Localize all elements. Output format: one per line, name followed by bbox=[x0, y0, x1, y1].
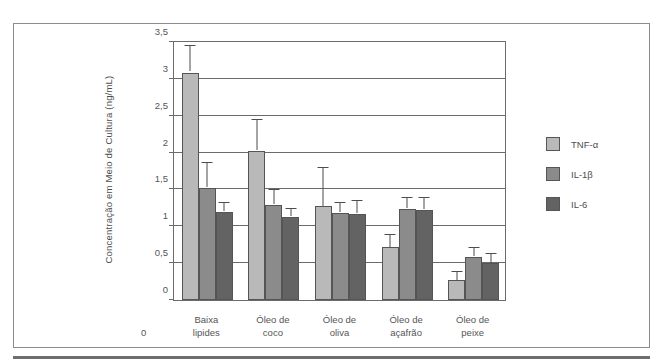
bar-slot bbox=[416, 42, 433, 300]
figure-divider-rule bbox=[13, 356, 650, 359]
bar[interactable] bbox=[282, 217, 299, 300]
bar[interactable] bbox=[315, 206, 332, 300]
error-bar bbox=[224, 203, 225, 211]
error-bar-cap bbox=[402, 197, 413, 198]
bar[interactable] bbox=[216, 212, 233, 300]
bar[interactable] bbox=[199, 188, 216, 300]
x-axis-origin-label: 0 bbox=[141, 327, 146, 338]
bar-slot bbox=[482, 42, 499, 300]
legend-swatch-icon bbox=[546, 137, 560, 151]
bar-slot bbox=[216, 42, 233, 300]
error-bar-cap bbox=[468, 247, 479, 248]
error-bar-cap bbox=[385, 234, 396, 235]
error-bar bbox=[490, 254, 491, 263]
bar[interactable] bbox=[182, 73, 199, 300]
y-axis-tick-label: 1,5 bbox=[155, 173, 168, 184]
legend-item[interactable]: IL-6 bbox=[546, 189, 636, 219]
bar[interactable] bbox=[382, 247, 399, 300]
legend-swatch-icon bbox=[546, 167, 560, 181]
x-axis-category-label-line: Baixa bbox=[173, 314, 240, 327]
legend-label: TNF-α bbox=[571, 139, 598, 150]
bar-slot bbox=[382, 42, 399, 300]
bar[interactable] bbox=[482, 263, 499, 300]
bar-slot bbox=[248, 42, 265, 300]
bar[interactable] bbox=[448, 280, 465, 300]
error-bar bbox=[340, 203, 341, 213]
x-axis-category-label-line: açafrão bbox=[373, 327, 440, 340]
error-bar-cap bbox=[285, 208, 296, 209]
x-axis-category-label: Óleo deaçafrão bbox=[373, 314, 440, 339]
bar-group bbox=[374, 42, 441, 300]
error-bar bbox=[407, 198, 408, 208]
x-axis-category-label: Óleo depeixe bbox=[439, 314, 506, 339]
bar-slot bbox=[349, 42, 366, 300]
error-bar bbox=[207, 163, 208, 188]
y-axis-tick-label: 3 bbox=[163, 62, 168, 73]
bar-series-layer bbox=[174, 42, 505, 300]
error-bar bbox=[323, 168, 324, 206]
bar-slot bbox=[399, 42, 416, 300]
bar-slot bbox=[282, 42, 299, 300]
bar[interactable] bbox=[465, 257, 482, 300]
bar[interactable] bbox=[349, 214, 366, 300]
bar-slot bbox=[182, 42, 199, 300]
error-bar bbox=[273, 190, 274, 204]
error-bar-cap bbox=[335, 202, 346, 203]
x-axis-category-label-line: Óleo de bbox=[306, 314, 373, 327]
legend-label: IL-6 bbox=[571, 199, 587, 210]
error-bar-cap bbox=[268, 189, 279, 190]
x-axis-category-label-line: lipides bbox=[173, 327, 240, 340]
chart-legend: TNF-αIL-1βIL-6 bbox=[546, 129, 636, 219]
y-axis-tick-label: 1 bbox=[163, 210, 168, 221]
error-bar bbox=[390, 235, 391, 246]
y-axis-tick-label: 2,5 bbox=[155, 99, 168, 110]
bar-slot bbox=[265, 42, 282, 300]
error-bar-cap bbox=[219, 202, 230, 203]
error-bar bbox=[357, 201, 358, 213]
bar[interactable] bbox=[332, 213, 349, 300]
legend-item[interactable]: IL-1β bbox=[546, 159, 636, 189]
error-bar bbox=[424, 198, 425, 210]
bar-group bbox=[241, 42, 308, 300]
bar-slot bbox=[448, 42, 465, 300]
legend-item[interactable]: TNF-α bbox=[546, 129, 636, 159]
x-axis-category-label-line: oliva bbox=[306, 327, 373, 340]
error-bar-cap bbox=[485, 253, 496, 254]
x-axis-category-label: Óleo deoliva bbox=[306, 314, 373, 339]
x-axis-labels: BaixalipidesÓleo decocoÓleo deolivaÓleo … bbox=[173, 314, 506, 360]
error-bar bbox=[473, 248, 474, 256]
bar-slot bbox=[199, 42, 216, 300]
error-bar-cap bbox=[251, 119, 262, 120]
figure-frame: Concentração em Meio de Cultura (ng/mL) … bbox=[13, 23, 650, 348]
bar-group bbox=[440, 42, 507, 300]
y-axis-tick-label: 0,5 bbox=[155, 247, 168, 258]
error-bar bbox=[456, 272, 457, 280]
error-bar-cap bbox=[352, 200, 363, 201]
bar[interactable] bbox=[265, 205, 282, 300]
legend-label: IL-1β bbox=[571, 169, 593, 180]
bar-group bbox=[307, 42, 374, 300]
error-bar bbox=[190, 46, 191, 71]
bar-slot bbox=[332, 42, 349, 300]
error-bar bbox=[256, 120, 257, 150]
error-bar-cap bbox=[185, 45, 196, 46]
bar-slot bbox=[315, 42, 332, 300]
x-axis-category-label: Baixalipides bbox=[173, 314, 240, 339]
error-bar-cap bbox=[202, 162, 213, 163]
y-axis-tick-label: 0 bbox=[163, 284, 168, 295]
error-bar-cap bbox=[318, 167, 329, 168]
bar[interactable] bbox=[416, 210, 433, 300]
plot-area: 00,511,522,533,5 bbox=[173, 41, 506, 301]
legend-swatch-icon bbox=[546, 197, 560, 211]
x-axis-category-label-line: Óleo de bbox=[439, 314, 506, 327]
x-axis-category-label-line: peixe bbox=[439, 327, 506, 340]
error-bar-cap bbox=[419, 197, 430, 198]
bar[interactable] bbox=[399, 209, 416, 300]
y-axis-tick-label: 2 bbox=[163, 136, 168, 147]
x-axis-category-label-line: Óleo de bbox=[373, 314, 440, 327]
bar[interactable] bbox=[248, 151, 265, 300]
y-axis-tick-label: 3,5 bbox=[155, 26, 168, 37]
bar-group bbox=[174, 42, 241, 300]
error-bar-cap bbox=[451, 271, 462, 272]
x-axis-category-label: Óleo decoco bbox=[240, 314, 307, 339]
